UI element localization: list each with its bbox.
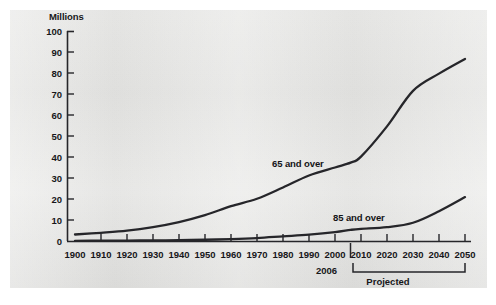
projected-bracket	[353, 263, 465, 272]
chart-figure: Millions 100 90 80 70 60 50 40 30 20 10 …	[0, 0, 496, 305]
plot-area	[0, 0, 496, 305]
series-line-65-and-over	[75, 59, 465, 235]
axis-lines	[67, 31, 471, 242]
series-line-85-and-over	[75, 197, 465, 241]
